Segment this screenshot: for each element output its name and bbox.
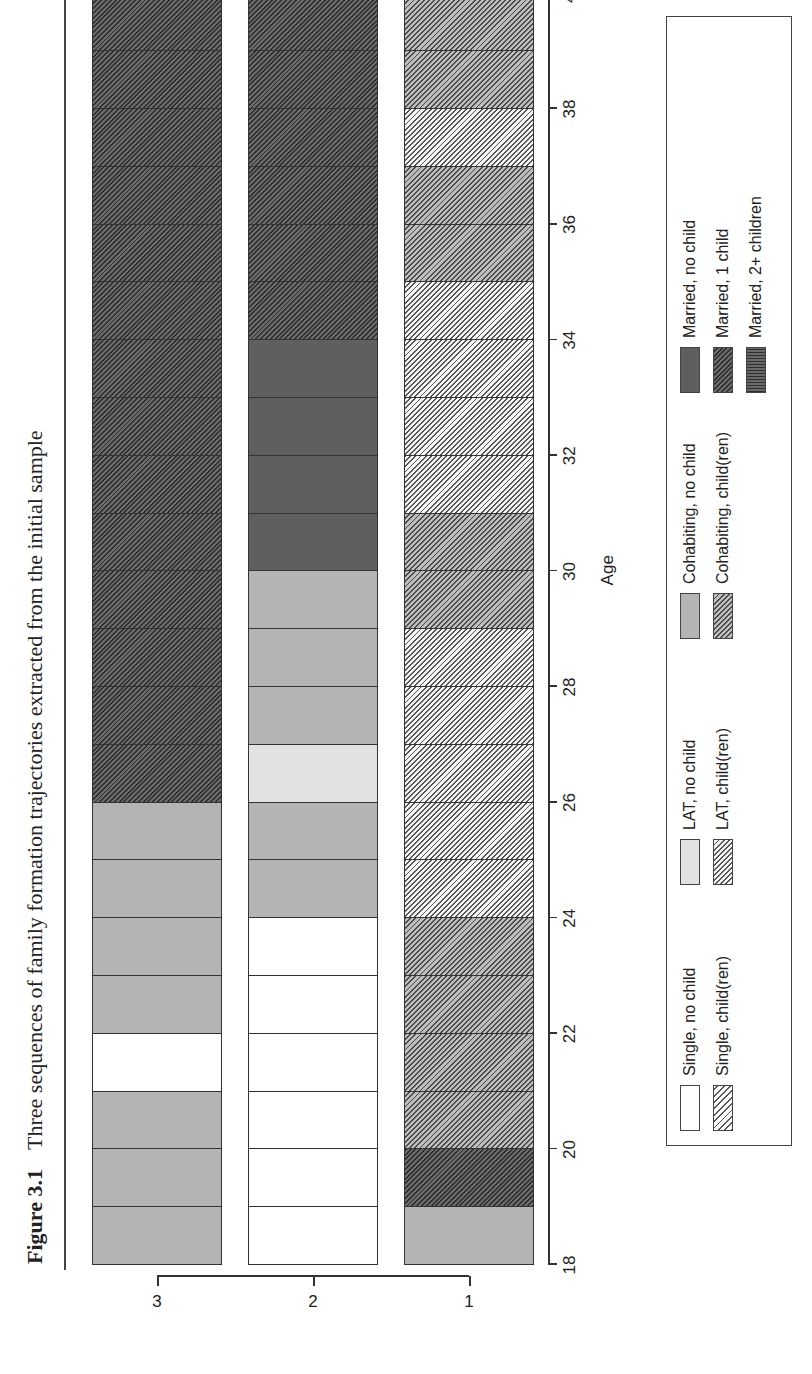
legend-item-married_1c: Married, 1 child: [712, 229, 734, 393]
state-cell: [248, 860, 378, 918]
x-tick-label: 26: [560, 783, 580, 823]
state-cell: [92, 455, 222, 513]
state-cell: [92, 51, 222, 109]
legend-item-single_ch: Single, child(ren): [712, 956, 734, 1131]
legend-label: Married, 1 child: [714, 229, 732, 338]
state-cell: [92, 513, 222, 571]
figure-canvas: Figure 3.1 Three sequences of family for…: [0, 0, 812, 1374]
state-cell: [248, 0, 378, 51]
state-cell: [92, 686, 222, 744]
state-cell: [248, 455, 378, 513]
x-axis-line: [548, 0, 550, 1265]
x-tick: [548, 570, 557, 572]
x-tick-label: 40: [560, 0, 580, 13]
legend-item-cohab_ch: Cohabiting, child(ren): [712, 432, 734, 639]
legend-label: LAT, no child: [681, 740, 699, 830]
x-tick: [548, 108, 557, 110]
state-cell: [92, 802, 222, 860]
x-tick: [548, 801, 557, 803]
legend-label: Married, 2+ children: [747, 196, 765, 338]
state-cell: [404, 513, 534, 571]
state-cell: [248, 1033, 378, 1091]
state-cell: [404, 108, 534, 166]
state-cell: [248, 108, 378, 166]
state-cell: [404, 686, 534, 744]
state-cell: [404, 918, 534, 976]
legend-item-married_2c: Married, 2+ children: [745, 196, 767, 393]
legend-label: Single, no child: [681, 967, 699, 1076]
state-cell: [248, 51, 378, 109]
x-tick-label: 32: [560, 436, 580, 476]
state-cell: [404, 744, 534, 802]
legend-swatch: [680, 839, 700, 885]
legend-item-lat_ch: LAT, child(ren): [712, 728, 734, 885]
legend-item-cohab_nc: Cohabiting, no child: [679, 443, 701, 639]
x-tick: [548, 339, 557, 341]
state-cell: [248, 513, 378, 571]
state-cell: [92, 918, 222, 976]
legend-swatch: [680, 1085, 700, 1131]
legend-item-single_nc: Single, no child: [679, 967, 701, 1131]
legend-swatch: [746, 347, 766, 393]
x-tick-label: 20: [560, 1129, 580, 1169]
state-cell: [404, 51, 534, 109]
x-tick-label: 34: [560, 320, 580, 360]
state-cell: [248, 166, 378, 224]
legend-swatch: [713, 347, 733, 393]
figure-caption: Figure 3.1 Three sequences of family for…: [22, 430, 48, 1264]
y-tick: [313, 1276, 315, 1286]
state-cell: [92, 1149, 222, 1207]
state-cell: [404, 860, 534, 918]
state-cell: [248, 397, 378, 455]
x-tick-label: 30: [560, 551, 580, 591]
legend: Single, no childSingle, child(ren)LAT, n…: [666, 16, 792, 1146]
state-cell: [404, 571, 534, 629]
state-cell: [404, 340, 534, 398]
x-tick: [548, 686, 557, 688]
legend-label: Single, child(ren): [714, 956, 732, 1076]
legend-swatch: [713, 593, 733, 639]
legend-label: Cohabiting, child(ren): [714, 432, 732, 584]
y-tick: [157, 1276, 159, 1286]
legend-item-married_nc: Married, no child: [679, 220, 701, 393]
x-tick-label: 28: [560, 667, 580, 707]
legend-item-lat_nc: LAT, no child: [679, 740, 701, 885]
state-cell: [248, 1149, 378, 1207]
x-axis-label: Age: [598, 555, 618, 585]
state-cell: [404, 166, 534, 224]
state-cell: [92, 224, 222, 282]
state-cell: [248, 340, 378, 398]
state-cell: [404, 1033, 534, 1091]
state-cell: [404, 1149, 534, 1207]
state-cell: [92, 975, 222, 1033]
figure-title: Three sequences of family formation traj…: [22, 430, 47, 1150]
state-cell: [92, 571, 222, 629]
state-cell: [92, 629, 222, 687]
y-tick-label: 1: [459, 1292, 479, 1312]
x-tick-label: 38: [560, 89, 580, 129]
state-cell: [404, 802, 534, 860]
state-cell: [92, 1207, 222, 1265]
figure-label: Figure 3.1: [22, 1169, 47, 1264]
x-tick-label: 24: [560, 898, 580, 938]
state-cell: [92, 166, 222, 224]
state-cell: [404, 1207, 534, 1265]
state-cell: [404, 397, 534, 455]
x-tick: [548, 917, 557, 919]
caption-rule: [64, 0, 66, 1270]
state-cell: [404, 1091, 534, 1149]
state-cell: [92, 860, 222, 918]
sequence-1: [404, 0, 534, 1265]
legend-swatch: [680, 347, 700, 393]
x-tick: [548, 454, 557, 456]
x-tick: [548, 1032, 557, 1034]
state-cell: [92, 282, 222, 340]
state-cell: [248, 975, 378, 1033]
state-cell: [248, 918, 378, 976]
legend-label: LAT, child(ren): [714, 728, 732, 830]
state-cell: [248, 1091, 378, 1149]
state-cell: [248, 802, 378, 860]
state-cell: [404, 629, 534, 687]
state-cell: [248, 1207, 378, 1265]
state-cell: [404, 0, 534, 51]
